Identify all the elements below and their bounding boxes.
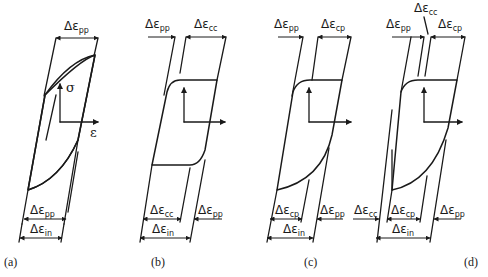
label-c-bottom-pp: Δεpp	[320, 203, 345, 219]
label-d-bottom-pp: Δεpp	[440, 203, 465, 219]
label-d-top-cp: Δεcp	[438, 17, 462, 33]
label-a-top-pp: Δεpp	[64, 19, 89, 35]
caption-d: (d)	[464, 255, 478, 269]
label-b-bottom-cc: Δεcc	[150, 203, 174, 219]
strain-range-partitioning-figure: σ ε Δεpp Δεpp Δεin (a) Δεpp Δεcc Δεcc Δε…	[0, 0, 488, 277]
panel-d: Δεpp Δεcc Δεcp Δεcc Δεcp Δεpp Δεin (d)	[353, 1, 478, 269]
caption-a: (a)	[4, 255, 17, 269]
sigma-label: σ	[66, 80, 75, 95]
label-c-top-cp: Δεcp	[321, 17, 345, 33]
epsilon-label: ε	[90, 125, 97, 140]
label-b-bottom-in: Δεin	[152, 222, 174, 238]
label-d-top-cc: Δεcc	[414, 1, 438, 17]
label-b-bottom-pp: Δεpp	[198, 203, 223, 219]
label-c-bottom-cp: Δεcp	[275, 203, 299, 219]
label-d-bottom-cp: Δεcp	[391, 203, 415, 219]
label-b-top-pp: Δεpp	[145, 17, 170, 33]
label-a-bottom-pp: Δεpp	[30, 203, 55, 219]
label-c-top-pp: Δεpp	[274, 17, 299, 33]
label-b-top-cc: Δεcc	[194, 17, 218, 33]
caption-c: (c)	[304, 255, 317, 269]
panel-a: σ ε Δεpp Δεpp Δεin (a)	[4, 19, 98, 269]
caption-b: (b)	[151, 255, 165, 269]
panel-c: Δεpp Δεcp Δεcp Δεpp Δεin (c)	[267, 17, 351, 269]
label-a-bottom-in: Δεin	[30, 222, 52, 238]
panel-b: Δεpp Δεcc Δεcc Δεpp Δεin (b)	[140, 17, 226, 269]
label-d-bottom-cc: Δεcc	[354, 203, 378, 219]
label-d-bottom-in: Δεin	[392, 222, 414, 238]
label-d-top-pp: Δεpp	[386, 17, 411, 33]
label-c-bottom-in: Δεin	[283, 222, 305, 238]
